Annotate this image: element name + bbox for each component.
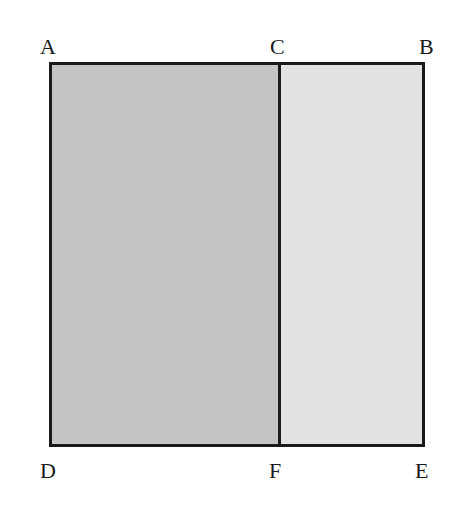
vertex-label-e: E <box>415 460 428 482</box>
vertex-label-c: C <box>270 36 285 58</box>
rectangle-outline-abed <box>49 62 425 447</box>
rectangle-diagram: A C B D F E <box>0 0 462 510</box>
vertex-label-b: B <box>419 36 434 58</box>
vertex-label-d: D <box>40 460 56 482</box>
vertex-label-a: A <box>40 36 56 58</box>
vertex-label-f: F <box>269 460 281 482</box>
segment-cf <box>278 62 281 447</box>
